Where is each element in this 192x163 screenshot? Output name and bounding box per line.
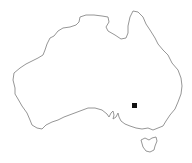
mainland-outline	[13, 11, 182, 130]
map-view: Australia	[0, 0, 192, 163]
location-marker[interactable]	[132, 103, 137, 108]
australia-map	[0, 0, 192, 163]
tasmania-outline	[141, 137, 157, 152]
